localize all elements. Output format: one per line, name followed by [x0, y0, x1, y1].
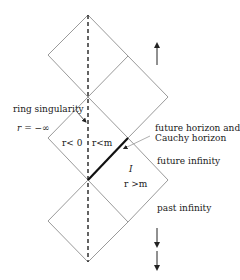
future-horizon-label-1: future horizon and [155, 123, 240, 133]
past-infinity-label: past infinity [157, 203, 212, 213]
future-horizon-label-2: Cauchy horizon [155, 133, 226, 143]
r-minus-infinity-label: r = −∞ [17, 123, 50, 133]
r-less-zero-label: r< 0 [62, 138, 83, 148]
ring-singularity-label: ring singularity [13, 104, 84, 114]
region-i-label: I [128, 164, 133, 174]
penrose-diagram: ring singularity r = −∞ r< 0 r<m future … [0, 0, 240, 280]
r-less-m-label: r<m [92, 138, 113, 148]
r-greater-m-label: r >m [124, 179, 148, 189]
future-infinity-label: future infinity [157, 156, 221, 166]
top-diamond [48, 15, 128, 97]
